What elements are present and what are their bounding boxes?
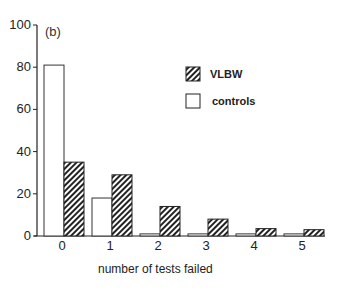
bar-controls <box>188 234 208 236</box>
bar-controls <box>92 198 112 236</box>
x-tick-label: 4 <box>250 238 257 253</box>
bar-controls <box>44 65 64 236</box>
bar-vlbw <box>112 175 132 236</box>
bar-chart: 020406080100 012345 (b) VLBW controls <box>0 0 342 293</box>
bar-vlbw <box>160 206 180 236</box>
bar-controls <box>284 234 304 236</box>
bar-vlbw <box>208 219 228 236</box>
legend: VLBW controls <box>186 67 255 108</box>
y-tick-label: 40 <box>17 144 31 159</box>
legend-swatch-vlbw <box>186 67 200 81</box>
bars <box>44 65 324 236</box>
x-tick-label: 1 <box>106 238 113 253</box>
x-axis-label: number of tests failed <box>98 262 213 276</box>
y-tick-label: 60 <box>17 101 31 116</box>
legend-label-vlbw: VLBW <box>210 68 243 80</box>
bar-controls <box>140 234 160 236</box>
panel-label: (b) <box>45 24 61 39</box>
x-tick-label: 2 <box>154 238 161 253</box>
x-tick-label: 0 <box>58 238 65 253</box>
bar-vlbw <box>64 162 84 236</box>
bar-controls <box>236 234 256 236</box>
y-tick-label: 80 <box>17 59 31 74</box>
x-tick-label: 5 <box>298 238 305 253</box>
legend-label-controls: controls <box>212 95 255 107</box>
x-tick-labels: 012345 <box>58 238 305 253</box>
y-tick-label: 100 <box>9 17 31 32</box>
x-tick-label: 3 <box>202 238 209 253</box>
bar-vlbw <box>256 229 276 236</box>
y-tick-label: 20 <box>17 186 31 201</box>
y-tick-label: 0 <box>24 228 31 243</box>
legend-swatch-controls <box>186 94 200 108</box>
bar-vlbw <box>304 230 324 236</box>
